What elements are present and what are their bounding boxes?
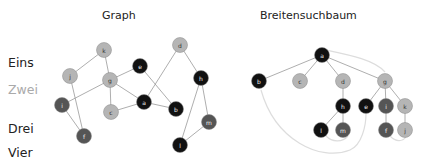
svg-text:h: h: [199, 75, 203, 82]
tree-nodes: abcdgheiklmfj: [252, 48, 413, 138]
svg-text:k: k: [102, 47, 106, 54]
graph-edge-j-f: [70, 76, 84, 136]
tree-edge-a-b: [259, 55, 322, 81]
tree-node-l: l: [314, 123, 329, 138]
tree-node-f: f: [379, 123, 394, 138]
graph-node-e: e: [133, 59, 148, 74]
tree-node-m: m: [336, 123, 351, 138]
tree-node-b: b: [252, 74, 267, 89]
graph-edge-a-d: [144, 45, 180, 102]
tree-node-e: e: [359, 99, 374, 114]
graph-node-a: a: [137, 95, 152, 110]
tree-node-i: i: [379, 99, 394, 114]
tree-back-edge: [261, 90, 366, 153]
svg-text:d: d: [178, 42, 182, 49]
graph-node-j: j: [63, 69, 78, 84]
graph-node-m: m: [202, 115, 217, 130]
graph-node-d: d: [173, 38, 188, 53]
tree-node-d: d: [336, 74, 351, 89]
svg-text:b: b: [174, 106, 178, 113]
graph-node-b: b: [169, 102, 184, 117]
graph-diagram: kjgedhicabmfl abcdgheiklmfj: [0, 0, 427, 166]
graph-node-k: k: [97, 43, 112, 58]
tree-node-g: g: [378, 74, 393, 89]
svg-text:j: j: [403, 127, 406, 135]
tree-edges: [259, 55, 405, 130]
svg-text:m: m: [206, 119, 212, 126]
svg-text:d: d: [341, 78, 345, 85]
svg-text:h: h: [341, 103, 345, 110]
graph-node-f: f: [77, 129, 92, 144]
tree-node-j: j: [398, 123, 413, 138]
svg-text:e: e: [364, 103, 368, 110]
svg-text:g: g: [108, 77, 112, 85]
svg-text:a: a: [142, 99, 146, 106]
svg-text:g: g: [383, 78, 387, 86]
tree-edge-a-g: [322, 55, 385, 81]
tree-node-h: h: [336, 99, 351, 114]
svg-text:c: c: [109, 109, 112, 116]
graph-edge-i-g: [62, 80, 110, 105]
tree-node-k: k: [398, 99, 413, 114]
svg-text:e: e: [138, 63, 142, 70]
svg-text:b: b: [257, 78, 261, 85]
tree-node-a: a: [315, 48, 330, 63]
svg-text:j: j: [68, 73, 71, 81]
graph-node-g: g: [103, 73, 118, 88]
graph-node-c: c: [104, 105, 119, 120]
svg-text:k: k: [403, 103, 407, 110]
graph-node-i: i: [55, 98, 70, 113]
svg-text:m: m: [340, 127, 346, 134]
graph-node-h: h: [194, 71, 209, 86]
graph-node-l: l: [173, 138, 188, 153]
svg-text:a: a: [320, 52, 324, 59]
svg-text:c: c: [298, 78, 301, 85]
tree-node-c: c: [293, 74, 308, 89]
